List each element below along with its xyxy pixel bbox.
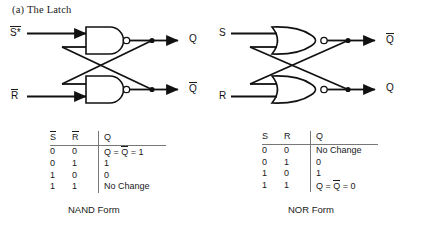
inversion-bubble-top [123,37,129,43]
header-r: R [72,131,99,145]
cell-q: No Change [311,145,379,157]
nor-truth-table: S R Q 0 0 No Change 0 1 0 1 [262,131,378,192]
cell-q: No Change [99,181,167,193]
cell-s: 1 [50,170,72,182]
cell-r: 0 [72,145,99,158]
cell-r: 1 [72,158,99,170]
cell-s: 0 [50,145,72,158]
table-header-row: S R Q [262,131,378,145]
nand-truth-table: S R Q 0 0 Q = Q = 1 0 1 1 1 [50,131,166,193]
table-row: 0 0 Q = Q = 1 [50,145,166,158]
nand-latch-circuit [27,27,178,103]
nand-form-label: NAND Form [68,204,120,215]
nor-q-output-label: Q [386,82,394,93]
nor-gate-bottom [272,76,316,103]
nor-latch-circuit [231,27,375,103]
nor-set-input-label: S [219,27,226,38]
nor-gate-top [272,27,316,54]
nand-qbar-output-label: Q [189,82,197,94]
cell-q: 0 [99,170,167,182]
latch-circuit-diagrams [0,0,424,228]
nor-qbar-output-label: Q [386,33,394,45]
cell-s: 0 [262,145,284,157]
table-row: 0 1 0 [262,157,378,169]
cell-r: 0 [284,145,311,157]
nor-form-label: NOR Form [288,204,334,215]
header-s: S [50,131,72,145]
nand-gate-bottom [86,76,124,103]
nand-reset-input-label: R [11,89,18,101]
table-row: 0 1 1 [50,158,166,170]
inversion-bubble-bottom [321,86,327,92]
cell-q: 1 [311,168,379,180]
table-row: 0 0 No Change [262,145,378,157]
cell-q: Q = Q = 0 [311,180,379,193]
cell-r: 0 [72,170,99,182]
table-row: 1 0 0 [50,170,166,182]
cell-s: 1 [50,181,72,193]
cell-r: 1 [284,157,311,169]
cell-r: 0 [284,168,311,180]
cell-q: Q = Q = 1 [99,145,167,158]
table-row: 1 0 1 [262,168,378,180]
nand-set-input-label: S* [10,26,21,38]
table-row: 1 1 No Change [50,181,166,193]
table-header-row: S R Q [50,131,166,145]
cell-r: 1 [72,181,99,193]
inversion-bubble-bottom [123,86,129,92]
cell-s: 1 [262,180,284,193]
cell-r: 1 [284,180,311,193]
header-r: R [284,131,311,145]
cell-s: 1 [262,168,284,180]
inversion-bubble-top [321,37,327,43]
header-q: Q [99,131,167,145]
nand-q-output-label: Q [189,33,197,44]
table-row: 1 1 Q = Q = 0 [262,180,378,193]
cell-q: 0 [311,157,379,169]
header-s: S [262,131,284,145]
header-q: Q [311,131,379,145]
nand-gate-top [86,27,124,54]
cell-s: 0 [262,157,284,169]
nor-reset-input-label: R [219,90,226,101]
cell-s: 0 [50,158,72,170]
cell-q: 1 [99,158,167,170]
